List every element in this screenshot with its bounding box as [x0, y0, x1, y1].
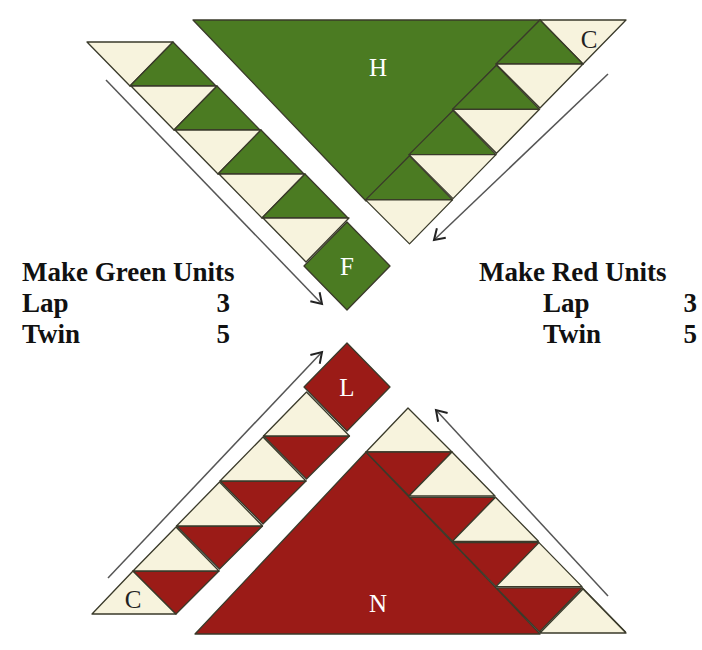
unit-count: 5	[217, 319, 231, 350]
red-units-title: Make Red Units	[479, 257, 697, 288]
green-units-row-lap: Lap 3	[22, 288, 230, 319]
red-units-table: Make Red Units Lap 3 Twin 5	[479, 257, 697, 350]
size-label: Twin	[543, 319, 601, 350]
size-label: Twin	[22, 319, 80, 350]
piece-label-green-large-triangle: H	[369, 54, 387, 81]
piece-label-red-corner-triangle: C	[125, 586, 142, 613]
unit-count: 3	[217, 288, 231, 319]
red-units-row-lap: Lap 3	[543, 288, 697, 319]
green-units-row-twin: Twin 5	[22, 319, 230, 350]
red-units-row-twin: Twin 5	[543, 319, 697, 350]
unit-count: 5	[684, 319, 698, 350]
piece-label-red-large-triangle: N	[369, 590, 387, 617]
cream-triangle	[366, 200, 453, 244]
unit-count: 3	[684, 288, 698, 319]
piece-label-red-square: L	[339, 374, 354, 401]
piece-label-green-corner-triangle: C	[581, 26, 598, 53]
green-units-title: Make Green Units	[22, 257, 266, 288]
cream-triangle	[366, 408, 452, 452]
size-label: Lap	[543, 288, 590, 319]
green-units-table: Make Green Units Lap 3 Twin 5	[22, 257, 266, 350]
size-label: Lap	[22, 288, 69, 319]
piece-label-green-square: F	[340, 253, 354, 280]
